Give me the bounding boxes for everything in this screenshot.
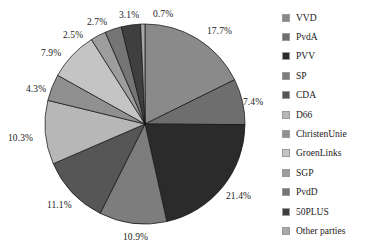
legend-item-label: Other parties (296, 226, 345, 236)
pie-value-label-d66: 10.3% (8, 133, 33, 143)
pie-value-label-christenunie: 4.3% (26, 84, 46, 94)
legend-item-cda[interactable]: CDA (282, 86, 372, 105)
legend-item-label: PvdA (296, 32, 318, 42)
pie-svg (0, 0, 278, 250)
legend-item-d66[interactable]: D66 (282, 105, 372, 124)
legend-item-label: SP (296, 71, 307, 81)
legend-swatch-icon (282, 208, 290, 216)
legend-item-label: 50PLUS (296, 207, 329, 217)
pie-value-label-cda: 11.1% (47, 200, 72, 210)
pie-plot-area: 17.7%7.4%21.4%10.9%11.1%10.3%4.3%7.9%2.5… (0, 0, 278, 250)
legend-item-50plus[interactable]: 50PLUS (282, 202, 372, 221)
legend-item-christenunie[interactable]: ChristenUnie (282, 124, 372, 143)
legend-swatch-icon (282, 149, 290, 157)
legend-swatch-icon (282, 72, 290, 80)
legend-swatch-icon (282, 52, 290, 60)
legend-swatch-icon (282, 14, 290, 22)
legend-item-label: ChristenUnie (296, 129, 347, 139)
legend-item-label: CDA (296, 90, 316, 100)
legend-item-sgp[interactable]: SGP (282, 163, 372, 182)
pie-value-label-other-parties: 0.7% (153, 9, 173, 19)
pie-value-label-sgp: 2.5% (63, 30, 83, 40)
legend-item-label: SGP (296, 168, 313, 178)
legend-swatch-icon (282, 169, 290, 177)
legend-item-vvd[interactable]: VVD (282, 8, 372, 27)
legend-item-pvdd[interactable]: PvdD (282, 183, 372, 202)
pie-value-label-groenlinks: 7.9% (41, 48, 61, 58)
legend-swatch-icon (282, 111, 290, 119)
pie-value-label-50plus: 3.1% (119, 10, 139, 20)
legend-item-pvda[interactable]: PvdA (282, 27, 372, 46)
legend-item-sp[interactable]: SP (282, 66, 372, 85)
legend-swatch-icon (282, 91, 290, 99)
pie-value-label-sp: 10.9% (123, 232, 148, 242)
legend-item-pvv[interactable]: PVV (282, 47, 372, 66)
legend-item-label: VVD (296, 13, 317, 23)
legend-swatch-icon (282, 188, 290, 196)
pie-slice-group (45, 24, 245, 224)
legend-swatch-icon (282, 130, 290, 138)
pie-value-label-pvda: 7.4% (243, 97, 263, 107)
pie-chart-figure: 17.7%7.4%21.4%10.9%11.1%10.3%4.3%7.9%2.5… (0, 0, 372, 250)
legend-swatch-icon (282, 227, 290, 235)
legend-item-label: PvdD (296, 187, 318, 197)
pie-value-label-pvdd: 2.7% (87, 17, 107, 27)
legend-item-label: PVV (296, 51, 315, 61)
legend-item-other-parties[interactable]: Other parties (282, 221, 372, 240)
legend-item-groenlinks[interactable]: GroenLinks (282, 144, 372, 163)
legend-swatch-icon (282, 33, 290, 41)
legend-item-label: D66 (296, 110, 312, 120)
pie-value-label-vvd: 17.7% (207, 26, 232, 36)
chart-legend: VVDPvdAPVVSPCDAD66ChristenUnieGroenLinks… (282, 8, 372, 244)
legend-item-label: GroenLinks (296, 148, 341, 158)
pie-value-label-pvv: 21.4% (226, 191, 251, 201)
